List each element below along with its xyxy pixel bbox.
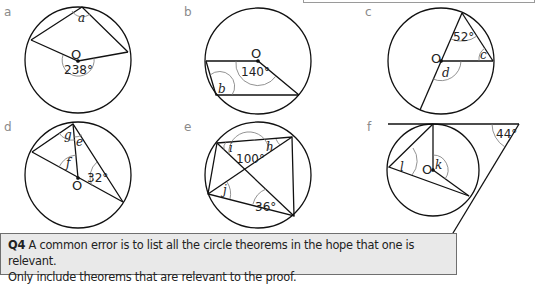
angle-36: 36° (255, 200, 276, 214)
unknown-l: l (400, 160, 404, 174)
angle-52: 52° (453, 30, 474, 44)
angle-238: 238° (64, 63, 93, 77)
hint-box-q4: Q4 A common error is to list all the cir… (0, 233, 457, 275)
unknown-g: g (64, 128, 72, 142)
centre-label-b: O (251, 46, 261, 61)
unknown-h: h (266, 140, 274, 154)
diagram-b (205, 8, 311, 114)
angle-32: 32° (87, 171, 108, 185)
centre-label-a: O (71, 47, 81, 62)
hint-line-1: Q4 A common error is to list all the cir… (8, 237, 450, 269)
unknown-b: b (218, 82, 226, 96)
unknown-c: c (480, 48, 487, 62)
unknown-f: f (65, 156, 73, 170)
angle-140: 140° (241, 65, 270, 79)
angle-44: 44° (496, 127, 517, 141)
centre-label-d: O (72, 178, 82, 193)
unknown-i: i (229, 141, 233, 155)
unknown-e: e (76, 135, 83, 149)
unknown-d: d (442, 66, 450, 80)
hint-text-1: A common error is to list all the circle… (8, 238, 414, 268)
diagram-f (387, 124, 519, 238)
unknown-a: a (78, 11, 85, 25)
unknown-k: k (435, 158, 442, 172)
hint-tag: Q4 (8, 238, 25, 252)
centre-label-f: O (422, 162, 432, 177)
angle-100: 100° (236, 152, 265, 166)
centre-label-c: O (431, 51, 441, 66)
hint-text-2: Only include theorems that are relevant … (8, 269, 450, 285)
